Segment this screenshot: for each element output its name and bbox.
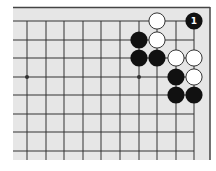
black-stone-icon <box>185 86 202 103</box>
star-point-icon <box>25 75 29 79</box>
white-stone-icon <box>186 50 202 66</box>
white-stone <box>186 69 202 85</box>
black-stone-icon <box>130 49 147 66</box>
go-board: 1 <box>0 0 216 171</box>
white-stone <box>149 13 165 29</box>
black-stone-icon <box>167 86 184 103</box>
white-stone-icon <box>168 50 184 66</box>
white-stone <box>168 50 184 66</box>
black-stone <box>185 86 202 103</box>
black-stone-numbered: 1 <box>185 12 202 29</box>
black-stone-icon <box>167 68 184 85</box>
black-stone-icon <box>148 49 165 66</box>
star-point-icon <box>137 75 141 79</box>
black-stone <box>167 68 184 85</box>
go-board-diagram: 1 <box>0 0 216 171</box>
black-stone <box>130 31 147 48</box>
move-number-label: 1 <box>191 16 197 26</box>
black-stone-icon <box>130 31 147 48</box>
white-stone <box>149 32 165 48</box>
white-stone-icon <box>149 32 165 48</box>
white-stone-icon <box>149 13 165 29</box>
black-stone <box>167 86 184 103</box>
black-stone <box>148 49 165 66</box>
black-stone <box>130 49 147 66</box>
white-stone-icon <box>186 69 202 85</box>
white-stone <box>186 50 202 66</box>
